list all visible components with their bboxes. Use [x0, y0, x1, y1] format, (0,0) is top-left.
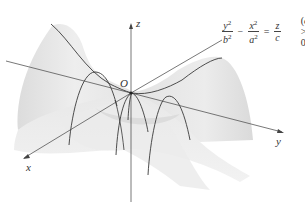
- eq-minus: −: [238, 26, 244, 37]
- origin-label: O: [120, 78, 128, 89]
- x-axis-label: x: [26, 162, 31, 173]
- fraction-z-c: z c: [274, 20, 280, 43]
- y-axis-label: y: [276, 136, 281, 147]
- eq-c: c: [274, 32, 280, 43]
- z-arrow-icon: [129, 23, 133, 29]
- eq-z: z: [275, 20, 281, 31]
- eq-condition: (c > 0): [301, 15, 305, 48]
- z-axis-label: z: [136, 18, 140, 29]
- fraction-x2-a2: x2 a2: [248, 18, 259, 45]
- eq-equals: =: [264, 26, 270, 37]
- equation: y2 b2 − x2 a2 = z c (c > 0): [220, 16, 305, 46]
- origin-point: [129, 91, 132, 94]
- y-arrow-icon: [277, 129, 284, 133]
- fraction-y2-b2: y2 b2: [222, 18, 233, 45]
